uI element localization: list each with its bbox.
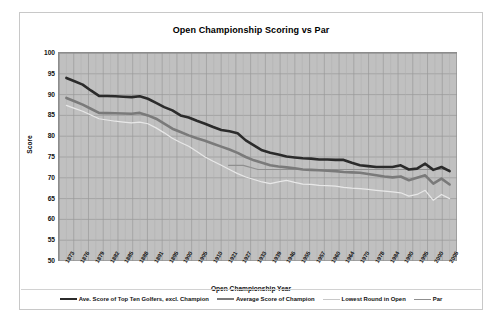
legend-divider [21, 289, 481, 290]
legend-line-icon [323, 299, 340, 300]
y-axis-tick-label: 95 [29, 69, 55, 76]
y-axis-tick-label: 70 [29, 173, 55, 180]
legend-item[interactable]: Par [414, 296, 443, 302]
chart-title: Open Championship Scoring vs Par [20, 25, 482, 35]
y-axis-tick-label: 75 [29, 153, 55, 160]
legend-line-icon [217, 298, 234, 300]
legend-item[interactable]: Lowest Round in Open [323, 296, 406, 302]
y-axis-tick-label: 90 [29, 90, 55, 97]
chart-container: Open Championship Scoring vs Par Score 1… [19, 12, 483, 310]
y-axis-tick-label: 50 [29, 257, 55, 264]
legend-item-label: Lowest Round in Open [342, 296, 406, 302]
y-axis-tick-labels: 10095908580757065605550 [25, 52, 55, 260]
chart-series-lines [59, 53, 457, 261]
y-axis-tick-label: 55 [29, 236, 55, 243]
y-axis-tick-label: 60 [29, 215, 55, 222]
y-axis-tick-label: 100 [29, 49, 55, 56]
legend-item[interactable]: Average Score of Champion [217, 296, 315, 302]
legend-item-label: Par [433, 296, 443, 302]
chart-legend: Ave. Score of Top Ten Golfers, excl. Cha… [20, 296, 482, 302]
y-axis-tick-label: 65 [29, 194, 55, 201]
legend-line-icon [60, 298, 77, 300]
y-axis-tick-label: 85 [29, 111, 55, 118]
plot-area [58, 52, 457, 261]
y-axis-tick-label: 80 [29, 132, 55, 139]
legend-item-label: Ave. Score of Top Ten Golfers, excl. Cha… [79, 296, 209, 302]
legend-item[interactable]: Ave. Score of Top Ten Golfers, excl. Cha… [60, 296, 209, 302]
legend-item-label: Average Score of Champion [236, 296, 315, 302]
legend-line-icon [414, 299, 431, 300]
